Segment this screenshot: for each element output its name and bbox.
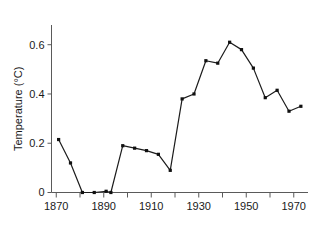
y-axis-title: Temperature (°C) [12,67,24,151]
y-tick-label: 0.6 [29,39,44,51]
x-tick-label: 1870 [44,200,68,212]
series-data-point [145,149,148,152]
y-tick-label: 0.2 [29,137,44,149]
data-series-temperature [57,41,302,194]
series-data-point [181,97,184,100]
series-data-point [133,147,136,150]
series-data-point [121,144,124,147]
series-data-point [216,62,219,65]
x-tick-label: 1950 [234,200,258,212]
series-data-point [192,92,195,95]
y-axis: 00.20.40.6 [29,25,51,198]
series-data-point [287,110,290,113]
series-data-point [69,161,72,164]
chart-canvas: 00.20.40.6 187018901910193019501970 Temp… [0,0,318,228]
x-tick-label: 1910 [139,200,163,212]
series-data-point [299,105,302,108]
series-data-point [264,96,267,99]
x-axis: 187018901910193019501970 [44,193,308,212]
series-data-point [169,169,172,172]
y-tick-label: 0.4 [29,88,44,100]
series-data-point [157,153,160,156]
series-data-point [109,191,112,194]
series-data-point [81,191,84,194]
series-data-point [204,59,207,62]
x-tick-label: 1890 [92,200,116,212]
temperature-line-chart: 00.20.40.6 187018901910193019501970 Temp… [0,0,318,228]
series-data-point [105,190,108,193]
series-data-point [57,138,60,141]
x-tick-label: 1930 [187,200,211,212]
x-tick-label: 1970 [282,200,306,212]
series-polyline [59,42,301,192]
series-data-point [93,191,96,194]
series-data-point [276,89,279,92]
series-data-point [252,67,255,70]
y-tick-label: 0 [38,186,44,198]
series-data-point [228,41,231,44]
series-data-point [240,48,243,51]
